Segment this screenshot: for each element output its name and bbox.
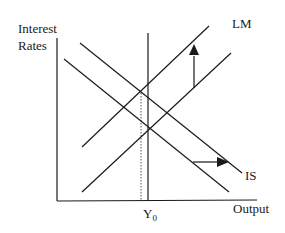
x-axis-label: Output [233, 202, 269, 216]
arrow-up-icon [189, 44, 199, 55]
y0-label-subscript: 0 [152, 213, 157, 223]
y0-label: Y0 [143, 207, 157, 225]
x-axis [57, 200, 257, 201]
is-curve-shifted [80, 43, 242, 173]
lm-curve-shifted [82, 26, 209, 147]
y0-label-main: Y [143, 206, 152, 221]
is-curve-original [64, 59, 229, 192]
lm-curve-original [82, 53, 231, 192]
y-axis-label-line1: Interest [18, 22, 57, 36]
lm-label: LM [232, 17, 252, 31]
y-axis-label-line2: Rates [18, 39, 47, 53]
is-label: IS [245, 169, 257, 183]
